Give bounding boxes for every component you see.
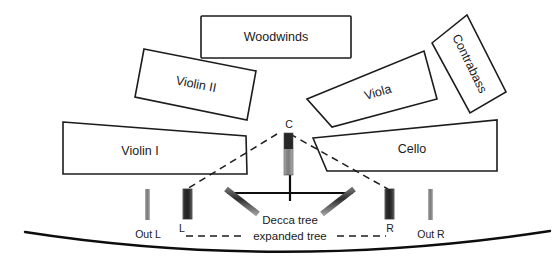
annotation-decca-tree-label: Decca tree: [262, 214, 318, 226]
section-violin-1[interactable]: Violin I: [63, 122, 247, 174]
microphone-outrigger-left-body: [145, 189, 150, 220]
microphone-left[interactable]: L: [179, 189, 192, 234]
annotation-expanded-tree: expanded tree: [186, 230, 386, 242]
microphone-center-body: [284, 149, 293, 175]
microphone-outrigger-left-label: Out L: [135, 228, 161, 240]
microphone-outrigger-right-body: [428, 189, 433, 220]
microphone-left-label: L: [179, 222, 185, 234]
section-woodwinds[interactable]: Woodwinds: [201, 16, 351, 58]
diagram-canvas: Woodwinds Violin II Viola Contrabass Vio…: [0, 0, 560, 272]
section-woodwinds-label: Woodwinds: [244, 30, 308, 44]
microphone-center[interactable]: C: [284, 118, 293, 175]
microphone-outrigger-right-label: Out R: [417, 228, 445, 240]
section-cello-label: Cello: [398, 142, 427, 156]
microphone-left-body: [183, 189, 192, 219]
microphone-outrigger-left[interactable]: Out L: [135, 189, 161, 240]
annotation-expanded-tree-label: expanded tree: [253, 230, 327, 242]
microphone-center-capsule: [284, 133, 293, 149]
microphone-outrigger-right[interactable]: Out R: [417, 189, 445, 240]
microphone-right[interactable]: R: [385, 189, 394, 234]
section-violin-2[interactable]: Violin II: [135, 49, 256, 120]
section-contrabass[interactable]: Contrabass: [432, 15, 506, 113]
microphone-right-body: [385, 189, 394, 219]
microphone-center-label: C: [285, 118, 293, 130]
microphone-right-label: R: [386, 222, 394, 234]
section-viola[interactable]: Viola: [307, 51, 437, 127]
section-violin-1-label: Violin I: [121, 144, 158, 158]
section-cello[interactable]: Cello: [313, 120, 497, 171]
orchestra-mic-placement-diagram: Woodwinds Violin II Viola Contrabass Vio…: [0, 0, 560, 272]
